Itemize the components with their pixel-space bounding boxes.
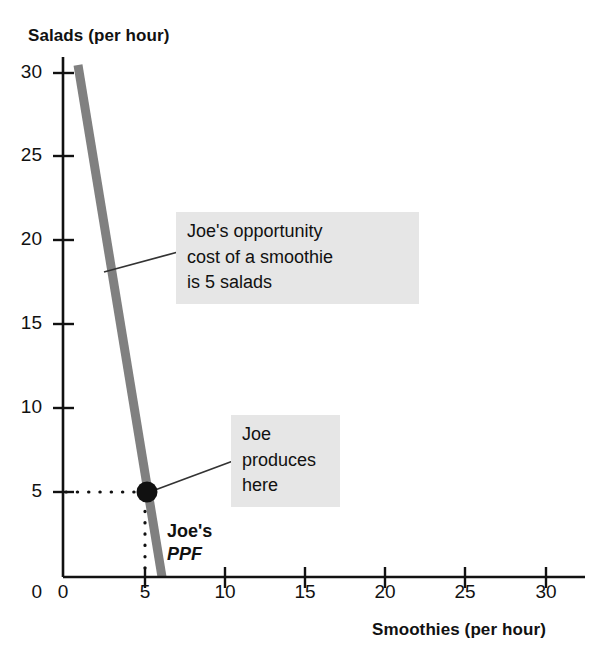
chart-canvas: [0, 0, 593, 664]
x-tick-label-0: 0: [48, 581, 78, 603]
ppf-label-line1: Joe's: [167, 521, 212, 541]
y-tick-label-30: 30: [8, 61, 42, 83]
ppf-chart: Salads (per hour) Smoothies (per hour) 3…: [0, 0, 593, 664]
y-tick-label-25: 25: [8, 144, 42, 166]
x-tick-label-5: 5: [130, 581, 160, 603]
y-tick-label-0: 0: [8, 581, 42, 603]
ppf-curve-label: Joe's PPF: [167, 520, 212, 565]
production-point-marker: [137, 482, 158, 503]
y-tick-label-20: 20: [8, 228, 42, 250]
x-tick-label-20: 20: [370, 581, 400, 603]
opportunity-cost-callout: Joe's opportunity cost of a smoothie is …: [176, 212, 419, 304]
ppf-label-line2: PPF: [167, 543, 212, 566]
leader-line-opportunity-cost: [104, 252, 178, 272]
produces-here-callout: Joe produces here: [231, 415, 340, 507]
x-tick-label-30: 30: [531, 581, 561, 603]
y-tick-label-5: 5: [8, 480, 42, 502]
x-axis-title: Smoothies (per hour): [372, 620, 546, 640]
x-tick-label-25: 25: [450, 581, 480, 603]
y-tick-label-15: 15: [8, 312, 42, 334]
x-tick-label-10: 10: [210, 581, 240, 603]
y-axis-title: Salads (per hour): [28, 26, 170, 46]
y-tick-label-10: 10: [8, 396, 42, 418]
x-tick-label-15: 15: [290, 581, 320, 603]
leader-line-produces-here: [155, 461, 233, 490]
